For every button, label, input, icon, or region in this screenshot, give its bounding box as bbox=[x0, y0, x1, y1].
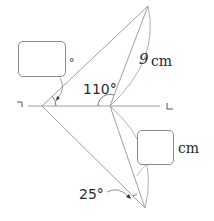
leader-25 bbox=[107, 190, 128, 196]
leader-right-box bbox=[137, 165, 146, 176]
answer-box-length[interactable] bbox=[137, 130, 174, 165]
leader-top-box bbox=[58, 78, 63, 98]
degree-unit-label: ° bbox=[69, 57, 75, 68]
side-9-value: 9 bbox=[139, 52, 149, 67]
left-end-marker bbox=[17, 102, 22, 107]
right-end-marker bbox=[167, 103, 173, 109]
angle-110-label: 110° bbox=[83, 82, 117, 96]
length-unit-label: cm bbox=[178, 141, 199, 155]
side-9-unit: cm bbox=[151, 54, 172, 68]
angle-25-label: 25° bbox=[79, 187, 104, 201]
angle-arc-bottom bbox=[133, 194, 137, 196]
geometry-figure bbox=[0, 0, 214, 221]
angle-arc-left bbox=[52, 96, 56, 106]
answer-box-angle[interactable] bbox=[18, 41, 66, 77]
